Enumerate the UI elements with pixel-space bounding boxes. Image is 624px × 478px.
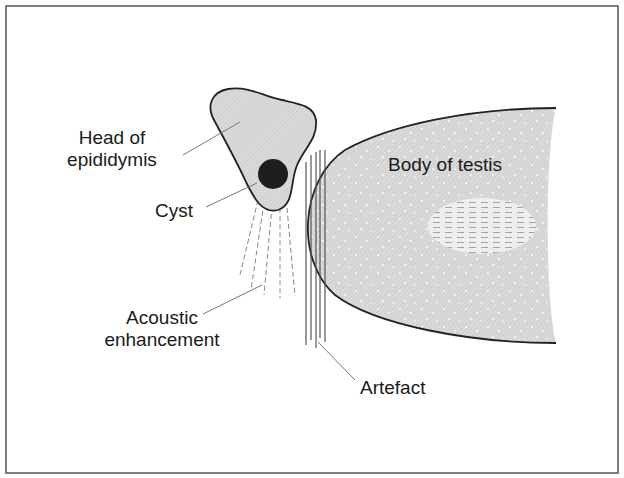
acoustic-enhancement-lines: [240, 200, 295, 298]
leader-artefact: [318, 342, 355, 380]
label-head-line2: epididymis: [46, 149, 178, 171]
testis-lesion: [428, 198, 536, 254]
cyst: [258, 159, 288, 189]
label-acoustic-line1: Acoustic: [82, 307, 242, 329]
label-artefact: Artefact: [360, 377, 425, 399]
leader-cyst: [206, 183, 257, 207]
anatomy-diagram: [0, 0, 624, 478]
label-cyst: Cyst: [155, 200, 193, 222]
body-of-testis: [308, 108, 556, 343]
label-head-of-epididymis: Head of epididymis: [46, 127, 178, 171]
label-head-line1: Head of: [46, 127, 178, 149]
diagram-canvas: Head of epididymis Cyst Acoustic enhance…: [0, 0, 624, 478]
head-of-epididymis: [210, 88, 316, 210]
label-body-of-testis: Body of testis: [388, 154, 502, 176]
label-acoustic-enhancement: Acoustic enhancement: [82, 307, 242, 351]
label-acoustic-line2: enhancement: [82, 329, 242, 351]
